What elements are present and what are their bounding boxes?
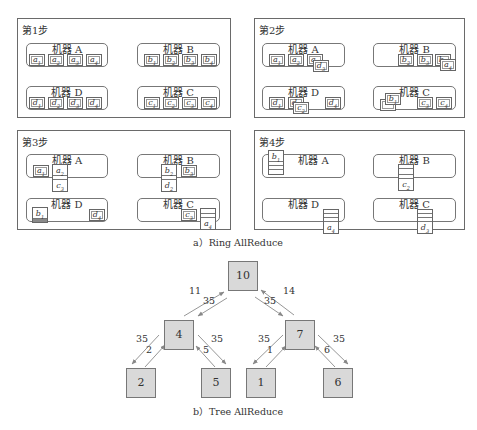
edge-label-lr-up: 5 bbox=[203, 344, 209, 355]
caption-tree-allreduce: b）Tree AllReduce bbox=[138, 404, 338, 418]
tree-leaf-5: 5 bbox=[201, 368, 231, 398]
tree-leaf-2: 2 bbox=[126, 368, 156, 398]
edge-label-ll-up: 2 bbox=[146, 344, 152, 355]
edge-label-lr-down: 35 bbox=[211, 333, 223, 344]
edge-label-rl-up: 1 bbox=[267, 344, 273, 355]
edge-label-rl-down: 35 bbox=[258, 333, 270, 344]
edge-label-left-down: 35 bbox=[203, 295, 215, 306]
tree-edges bbox=[0, 0, 477, 430]
tree-leaf-6: 6 bbox=[323, 368, 353, 398]
edge-label-right-down: 35 bbox=[264, 295, 276, 306]
tree-node-left: 4 bbox=[164, 320, 194, 350]
tree-node-right: 7 bbox=[285, 320, 315, 350]
edge-label-rr-down: 35 bbox=[333, 333, 345, 344]
edge-label-right-up: 14 bbox=[283, 285, 295, 296]
tree-node-root: 10 bbox=[228, 261, 258, 291]
edge-label-ll-down: 35 bbox=[136, 333, 148, 344]
edge-label-left-up: 11 bbox=[189, 285, 201, 296]
tree-leaf-1: 1 bbox=[246, 368, 276, 398]
edge-label-rr-up: 6 bbox=[324, 344, 330, 355]
